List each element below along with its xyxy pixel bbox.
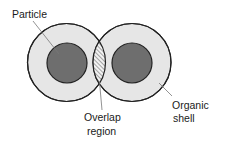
particle-label: Particle	[12, 8, 47, 20]
particle-shell-diagram: Particle Overlap region Organic shell	[0, 0, 225, 142]
shell-label-line1: Organic	[172, 99, 209, 111]
right-particle	[112, 43, 152, 83]
overlap-label-line1: Overlap	[84, 111, 121, 123]
left-particle	[47, 43, 87, 83]
overlap-label-line2: region	[87, 125, 116, 137]
shell-label-line2: shell	[173, 112, 195, 124]
